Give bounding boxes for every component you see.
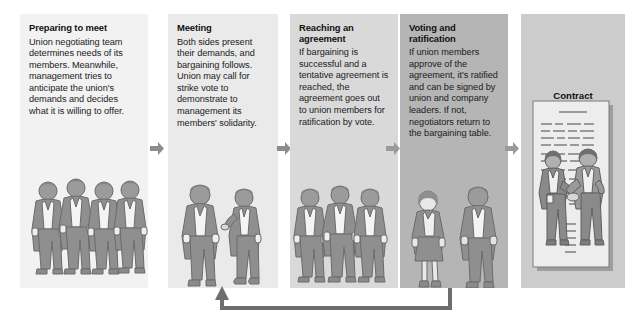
panel-preparing-to-meet: Preparing to meet Union negotiating team… [20, 14, 148, 288]
panel-contract: Contract [521, 14, 625, 288]
process-diagram: Preparing to meet Union negotiating team… [0, 0, 637, 322]
art-two-men-talking [168, 180, 278, 288]
art-handshake-contract [529, 99, 617, 274]
arrow-right-icon-4 [505, 142, 519, 155]
panel-body: Union negotiating team determines needs … [29, 37, 139, 118]
arrow-right-icon-3 [386, 142, 400, 155]
panel-body: Both sides present their demands, and ba… [177, 37, 269, 130]
panel-body: If bargaining is successful and a tentat… [299, 47, 389, 128]
panel-title: Reaching an agreement [299, 23, 389, 44]
panel-body: If union members approve of the agreemen… [409, 47, 499, 140]
panel-title: Meeting [177, 23, 269, 34]
panel-reaching-an-agreement: Reaching an agreement If bargaining is s… [290, 14, 398, 288]
arrow-right-icon-1 [150, 142, 164, 155]
art-woman-and-man [400, 184, 508, 288]
arrow-right-icon-2 [277, 142, 291, 155]
panel-voting-and-ratification: Voting and ratification If union members… [400, 14, 508, 288]
art-three-men-standing [290, 182, 398, 288]
arrow-up-icon [215, 286, 229, 300]
panel-meeting: Meeting Both sides present their demands… [168, 14, 278, 288]
panel-title: Voting and ratification [409, 23, 499, 44]
panel-title: Preparing to meet [29, 23, 139, 34]
art-four-union-men [20, 176, 148, 288]
